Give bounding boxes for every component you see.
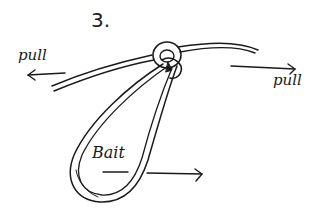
arrow-bait (103, 169, 202, 181)
main-line-right-inner (180, 48, 255, 53)
main-line-left-outer (52, 55, 152, 86)
bait-label: Bait (92, 145, 125, 161)
knot-illustration (0, 0, 326, 218)
main-line-right-outer (178, 43, 258, 50)
step-number: 3. (91, 10, 110, 30)
arrow-left (28, 70, 65, 80)
pull-left-label: pull (18, 48, 47, 63)
bait-loop-outer (70, 64, 177, 202)
pull-right-label: pull (273, 73, 302, 88)
knot-ring-outer (153, 42, 181, 68)
bait-loop-inner (79, 66, 172, 195)
main-line-left-inner (54, 60, 154, 91)
knot-diagram: 3. pull pull Bait (0, 0, 326, 218)
